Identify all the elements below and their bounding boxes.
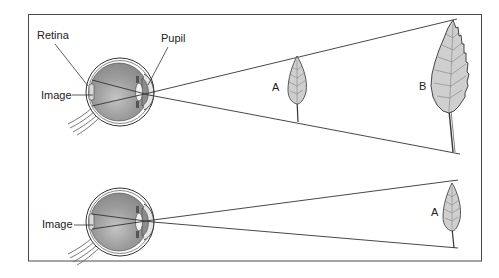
label-image-bottom: Image [42, 218, 73, 230]
bottom-panel: Image A [42, 180, 461, 265]
label-image-top: Image [41, 89, 72, 101]
label-a-bottom: A [431, 206, 439, 218]
diagram-canvas: Retina Pupil Image A B I [0, 0, 499, 278]
leaf-b [431, 20, 469, 152]
vision-diagram: Retina Pupil Image A B I [0, 0, 499, 278]
pupil-leader-line [148, 47, 168, 85]
top-panel: Retina Pupil Image A B [37, 19, 469, 154]
label-pupil: Pupil [161, 32, 185, 44]
leaf-a-bottom [443, 183, 461, 248]
label-retina: Retina [37, 29, 70, 41]
label-b: B [419, 80, 426, 92]
leaf-a-top [288, 56, 306, 122]
eye-top [68, 58, 154, 135]
retina-leader-line [55, 44, 88, 86]
label-a-top: A [272, 81, 280, 93]
